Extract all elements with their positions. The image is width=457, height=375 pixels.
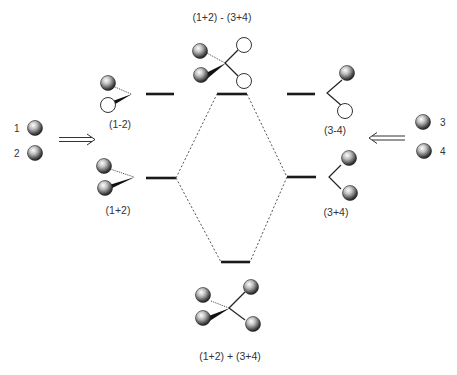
correlation-lines xyxy=(176,94,287,262)
orbital-label-1-plus-2: (1+2) xyxy=(106,204,131,216)
orbital-right-lower: (3+4) xyxy=(287,151,358,219)
empty-lobe-icon xyxy=(338,104,353,119)
filled-lobe-icon xyxy=(193,44,208,59)
atom-4-sphere-icon xyxy=(417,144,432,159)
title-antibonding: (1+2) - (3+4) xyxy=(193,11,252,23)
filled-lobe-icon xyxy=(97,159,112,174)
atom-label-3: 3 xyxy=(440,117,446,128)
left-atoms: 1 2 xyxy=(14,121,43,161)
orbital-label-1-minus-2: (1-2) xyxy=(109,118,131,130)
filled-lobe-icon xyxy=(196,311,211,326)
atom-label-1: 1 xyxy=(14,123,20,134)
orbital-center-upper xyxy=(193,38,252,95)
empty-lobe-icon xyxy=(237,74,252,89)
orbital-interaction-diagram: (1+2) - (3+4) 1 2 3 4 (1-2) xyxy=(0,0,457,375)
empty-lobe-icon xyxy=(237,38,252,53)
orbital-label-3-minus-4: (3-4) xyxy=(324,124,346,136)
atom-2-sphere-icon xyxy=(28,146,43,161)
filled-lobe-icon xyxy=(196,288,211,303)
atom-3-sphere-icon xyxy=(416,115,431,130)
orbital-right-upper: (3-4) xyxy=(287,66,355,137)
implies-arrow-right-icon xyxy=(369,133,405,144)
filled-lobe-icon xyxy=(244,280,259,295)
atom-1-sphere-icon xyxy=(28,121,43,136)
atom-label-2: 2 xyxy=(14,148,20,159)
filled-lobe-icon xyxy=(342,151,357,166)
atom-label-4: 4 xyxy=(440,146,446,157)
filled-lobe-icon xyxy=(340,66,355,81)
orbital-label-3-plus-4: (3+4) xyxy=(324,206,349,218)
filled-lobe-icon xyxy=(101,76,116,91)
filled-lobe-icon xyxy=(343,186,358,201)
empty-lobe-icon xyxy=(101,98,116,113)
implies-arrow-left-icon xyxy=(59,134,95,145)
right-atoms: 3 4 xyxy=(416,115,447,159)
orbital-center-lower xyxy=(196,262,261,332)
filled-lobe-icon xyxy=(246,317,261,332)
title-bonding: (1+2) + (3+4) xyxy=(199,350,261,362)
orbital-left-upper: (1-2) xyxy=(101,76,175,131)
filled-lobe-icon xyxy=(98,181,113,196)
filled-lobe-icon xyxy=(194,68,209,83)
orbital-left-lower: (1+2) xyxy=(97,159,177,217)
